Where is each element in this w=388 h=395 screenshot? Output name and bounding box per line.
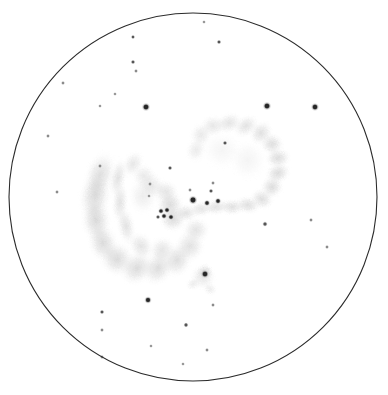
- field-star: [204, 200, 211, 207]
- field-of-view-drawing: [0, 0, 388, 395]
- star-core: [218, 41, 221, 44]
- field-star: [211, 181, 216, 186]
- star-core: [169, 215, 172, 218]
- field-star: [149, 344, 153, 348]
- field-star: [262, 221, 268, 227]
- star-core: [99, 165, 101, 167]
- star-core: [99, 105, 101, 107]
- field-star: [188, 188, 193, 193]
- field-star: [201, 270, 210, 279]
- star-core: [114, 93, 116, 95]
- star-core: [265, 104, 270, 109]
- star-core: [189, 189, 191, 191]
- star-core: [62, 82, 64, 84]
- field-star: [181, 362, 185, 366]
- star-core: [326, 246, 328, 248]
- star-core: [313, 105, 317, 109]
- star-core: [132, 36, 134, 38]
- field-star: [147, 194, 151, 198]
- star-core: [212, 304, 214, 306]
- field-star: [311, 103, 320, 112]
- star-core: [216, 199, 219, 202]
- star-core: [150, 345, 152, 347]
- field-star: [205, 348, 210, 353]
- field-star: [211, 303, 216, 308]
- star-core: [146, 298, 150, 302]
- star-core: [210, 190, 213, 193]
- star-core: [132, 61, 135, 64]
- star-core: [56, 191, 58, 193]
- star-core: [185, 324, 188, 327]
- field-star: [46, 134, 51, 139]
- star-core: [169, 167, 172, 170]
- nebulosity-patch: [228, 138, 268, 182]
- star-core: [149, 183, 151, 185]
- star-core: [144, 105, 149, 110]
- field-star: [99, 309, 104, 314]
- field-star: [202, 20, 206, 24]
- star-core: [157, 216, 160, 219]
- star-core: [191, 198, 196, 203]
- field-star: [208, 188, 213, 193]
- field-star: [100, 328, 105, 333]
- field-star: [134, 69, 139, 74]
- star-core: [310, 219, 312, 221]
- field-star: [144, 296, 152, 304]
- star-core: [148, 195, 150, 197]
- field-star: [222, 140, 227, 145]
- star-core: [203, 21, 205, 23]
- star-core: [224, 142, 227, 145]
- field-star: [131, 35, 136, 40]
- field-star: [309, 218, 314, 223]
- star-core: [212, 182, 214, 184]
- field-star: [216, 39, 221, 44]
- field-star: [141, 102, 150, 111]
- field-star: [98, 104, 102, 108]
- field-star: [325, 245, 330, 250]
- field-star: [188, 195, 198, 205]
- field-star: [161, 213, 167, 219]
- star-core: [101, 311, 104, 314]
- field-star: [113, 92, 117, 96]
- star-core: [159, 209, 162, 212]
- star-core: [162, 214, 165, 217]
- eyepiece-sketch: [0, 0, 388, 395]
- field-star: [55, 190, 60, 195]
- star-core: [206, 349, 208, 351]
- field-star: [130, 59, 135, 64]
- field-star: [262, 101, 271, 110]
- field-star: [61, 81, 66, 86]
- field-star: [148, 182, 153, 187]
- field-star: [155, 214, 160, 219]
- star-core: [47, 135, 49, 137]
- field-star: [183, 322, 189, 328]
- star-core: [203, 272, 207, 276]
- field-star: [168, 214, 174, 220]
- star-core: [165, 208, 168, 211]
- star-core: [135, 70, 137, 72]
- star-core: [264, 223, 267, 226]
- star-core: [182, 363, 184, 365]
- star-core: [205, 201, 208, 204]
- field-star: [215, 198, 222, 205]
- star-core: [101, 329, 103, 331]
- field-star: [167, 165, 172, 170]
- field-star: [98, 164, 103, 169]
- field-star: [164, 207, 170, 213]
